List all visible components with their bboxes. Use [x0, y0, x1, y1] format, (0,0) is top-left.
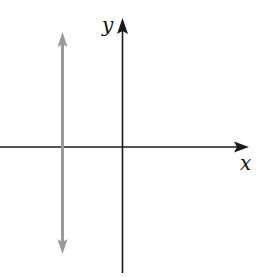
- coordinate-plane: x y: [0, 0, 264, 277]
- y-axis: [117, 18, 128, 273]
- x-axis: [0, 142, 249, 153]
- y-axis-label: y: [101, 13, 114, 37]
- vertical-line: [58, 32, 68, 254]
- x-axis-label: x: [240, 151, 251, 175]
